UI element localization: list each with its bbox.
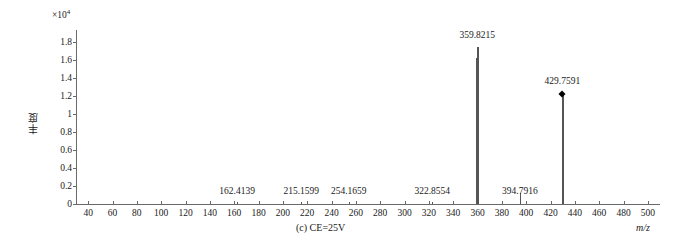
y-tick-label: 1.4 [60,73,72,83]
x-tick-label: 320 [422,208,436,218]
x-axis-title: m/z [636,222,650,233]
y-tick-label: 1.6 [60,55,72,65]
x-tick-label: 180 [251,208,265,218]
peak-label: 394.7916 [502,186,538,196]
peak-label: 162.4139 [219,186,255,196]
x-tick-label: 40 [83,208,93,218]
x-tick-label: 220 [300,208,314,218]
peak-label: 359.8215 [459,30,495,40]
x-tick-label: 340 [446,208,460,218]
peak-label: 215.1599 [283,186,319,196]
peak-label: 429.7591 [545,76,581,86]
x-tick-label: 140 [203,208,217,218]
x-tick-label: 360 [470,208,484,218]
spectrum-peak [432,202,433,204]
x-tick-label: 500 [641,208,655,218]
figure-caption: (c) CE=25V [296,222,345,233]
x-tick-label: 60 [108,208,118,218]
x-tick-label: 80 [132,208,142,218]
peak-label: 322.8554 [414,186,450,196]
spectrum-peak [301,202,302,204]
x-tick-label: 120 [178,208,192,218]
y-tick-label: 0 [67,199,72,209]
y-tick-label: 0.8 [60,127,72,137]
spectrum-peak [477,47,479,205]
x-tick-label: 200 [276,208,290,218]
x-tick-label: 240 [324,208,338,218]
x-tick-label: 460 [592,208,606,218]
mass-spectrum-figure: ×104 00.20.40.60.811.21.41.61.8 40608010… [0,0,682,245]
y-tick-label: 0.4 [60,163,72,173]
peak-marker-diamond [559,91,566,98]
plot-area [76,33,660,204]
x-axis-line [76,204,660,205]
x-tick-label: 480 [616,208,630,218]
spectrum-peak [562,94,564,204]
x-tick-label: 440 [568,208,582,218]
x-tick-label: 420 [543,208,557,218]
y-axis-title: 丰度 [26,112,41,134]
y-tick-label: 1 [67,109,72,119]
peak-label: 254.1659 [331,186,367,196]
x-tick-label: 300 [397,208,411,218]
spectrum-peak [237,202,238,204]
y-tick-label: 1.8 [60,37,72,47]
x-tick-label: 100 [154,208,168,218]
spectrum-peak [349,202,350,204]
x-tick-label: 280 [373,208,387,218]
y-tick-label: 1.2 [60,91,72,101]
x-tick-label: 160 [227,208,241,218]
y-tick-mark [73,204,77,205]
y-tick-label: 0.2 [60,181,72,191]
x-tick-label: 260 [349,208,363,218]
x-tick-label: 400 [519,208,533,218]
x-tick-label: 380 [495,208,509,218]
y-tick-label: 0.6 [60,145,72,155]
